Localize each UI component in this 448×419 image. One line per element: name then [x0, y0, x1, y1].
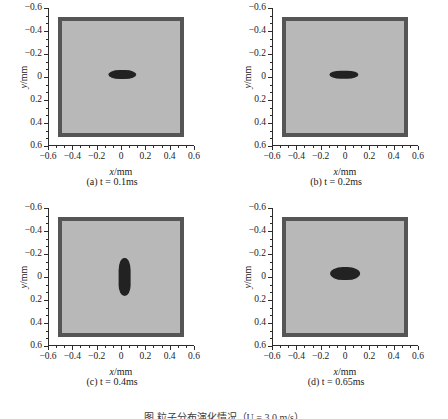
y-tick-label: −0.4 [25, 26, 42, 36]
y-axis-symbol: y [242, 84, 253, 88]
x-tick-label: −0.6 [263, 352, 280, 362]
y-tick-label: 0.2 [30, 295, 42, 305]
x-tick-label: 0.4 [164, 352, 176, 362]
y-tick-label: 0 [37, 72, 42, 82]
x-tick-major [369, 146, 370, 150]
x-tick-minor [178, 146, 179, 148]
x-tick-label: 0.4 [164, 152, 176, 162]
x-tick-major [72, 146, 73, 150]
y-tick-minor [46, 46, 48, 47]
x-tick-minor [186, 346, 187, 348]
x-tick-label: 0.4 [388, 152, 400, 162]
x-tick-minor [304, 146, 305, 148]
particle-cluster [109, 70, 136, 80]
x-tick-minor [280, 346, 281, 348]
x-tick-major [272, 346, 273, 350]
particle-cluster-layer [48, 208, 194, 346]
y-tick-minor [46, 23, 48, 24]
y-tick-minor [46, 223, 48, 224]
x-tick-major [194, 146, 195, 150]
y-axis-symbol: y [242, 284, 253, 288]
x-tick-label: −0.4 [64, 152, 81, 162]
y-tick-label: 0.2 [254, 95, 266, 105]
x-tick-minor [137, 146, 138, 148]
x-tick-label: 0 [343, 152, 348, 162]
x-tick-minor [329, 146, 330, 148]
y-tick-major [268, 208, 272, 209]
x-tick-minor [329, 346, 330, 348]
y-tick-major [44, 31, 48, 32]
y-tick-label: −0.4 [249, 26, 266, 36]
x-tick-label: −0.2 [88, 152, 105, 162]
plot-area-d: y/mm x/mm 0.60.40.20−0.2−0.4−0.6−0.6−0.4… [272, 208, 418, 346]
y-tick-minor [270, 269, 272, 270]
x-tick-major [170, 346, 171, 350]
x-tick-label: −0.6 [39, 152, 56, 162]
x-tick-label: 0.2 [139, 352, 151, 362]
x-tick-label: 0.6 [188, 352, 200, 362]
x-tick-label: −0.2 [88, 352, 105, 362]
y-tick-major [268, 323, 272, 324]
y-tick-label: −0.4 [249, 226, 266, 236]
y-tick-minor [270, 262, 272, 263]
x-tick-minor [280, 146, 281, 148]
subplot-d: y/mm x/mm 0.60.40.20−0.2−0.4−0.6−0.6−0.4… [224, 200, 448, 400]
y-tick-minor [270, 39, 272, 40]
y-tick-major [268, 31, 272, 32]
x-tick-minor [361, 146, 362, 148]
figure-particle-distribution: y/mm x/mm 0.60.40.20−0.2−0.4−0.6−0.6−0.4… [0, 0, 448, 419]
x-tick-minor [353, 346, 354, 348]
y-axis-title: y/mm [242, 266, 253, 289]
y-tick-minor [270, 308, 272, 309]
y-tick-label: 0.6 [30, 141, 42, 151]
x-tick-minor [337, 146, 338, 148]
x-tick-minor [129, 146, 130, 148]
x-tick-major [321, 146, 322, 150]
x-tick-major [418, 146, 419, 150]
x-tick-minor [153, 346, 154, 348]
y-tick-minor [270, 92, 272, 93]
x-tick-label: 0.2 [363, 352, 375, 362]
x-tick-major [170, 146, 171, 150]
y-tick-label: −0.2 [25, 49, 42, 59]
y-tick-major [44, 208, 48, 209]
x-tick-minor [80, 346, 81, 348]
x-tick-minor [178, 346, 179, 348]
y-tick-minor [46, 85, 48, 86]
y-axis-unit: /mm [18, 266, 29, 284]
x-tick-major [97, 146, 98, 150]
x-tick-major [145, 146, 146, 150]
x-tick-label: −0.2 [312, 152, 329, 162]
y-tick-minor [270, 131, 272, 132]
y-tick-minor [46, 39, 48, 40]
x-tick-label: 0.6 [188, 152, 200, 162]
x-tick-major [296, 346, 297, 350]
x-tick-major [145, 346, 146, 350]
y-axis-unit: /mm [242, 66, 253, 84]
y-tick-minor [270, 46, 272, 47]
y-tick-minor [46, 338, 48, 339]
x-tick-minor [89, 346, 90, 348]
y-tick-minor [46, 239, 48, 240]
subplot-b: y/mm x/mm 0.60.40.20−0.2−0.4−0.6−0.6−0.4… [224, 0, 448, 200]
x-tick-major [394, 146, 395, 150]
subplot-caption-c: (c) t = 0.4ms [0, 376, 224, 387]
x-tick-minor [353, 146, 354, 148]
y-tick-minor [46, 216, 48, 217]
y-tick-minor [46, 269, 48, 270]
x-tick-major [72, 346, 73, 350]
y-tick-major [268, 277, 272, 278]
x-tick-major [345, 346, 346, 350]
y-tick-major [44, 8, 48, 9]
x-tick-major [345, 146, 346, 150]
x-tick-minor [337, 346, 338, 348]
y-tick-major [268, 300, 272, 301]
y-tick-minor [270, 216, 272, 217]
x-tick-minor [304, 346, 305, 348]
y-axis-title: y/mm [18, 66, 29, 89]
y-tick-major [268, 231, 272, 232]
y-tick-label: −0.6 [25, 203, 42, 213]
x-tick-minor [402, 146, 403, 148]
y-tick-major [268, 100, 272, 101]
y-tick-label: 0.4 [30, 118, 42, 128]
